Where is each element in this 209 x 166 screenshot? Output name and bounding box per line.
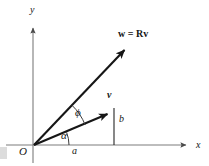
page-edge-artifact <box>0 147 7 159</box>
y-axis-label: y <box>30 5 34 15</box>
alpha-angle-label: α <box>61 130 67 141</box>
phi-angle-label: ϕ <box>75 107 81 118</box>
v-vector-arrow <box>34 114 108 145</box>
x-axis-label: x <box>196 140 200 150</box>
vector-rotation-figure: y x O w = Rv v ϕ α a b <box>0 0 209 166</box>
origin-label: O <box>19 146 27 157</box>
v-vector-label: v <box>107 90 111 100</box>
w-vector-label: w = Rv <box>118 29 148 39</box>
a-component-label: a <box>72 146 77 156</box>
b-component-label: b <box>119 114 124 124</box>
figure-canvas <box>0 0 209 166</box>
